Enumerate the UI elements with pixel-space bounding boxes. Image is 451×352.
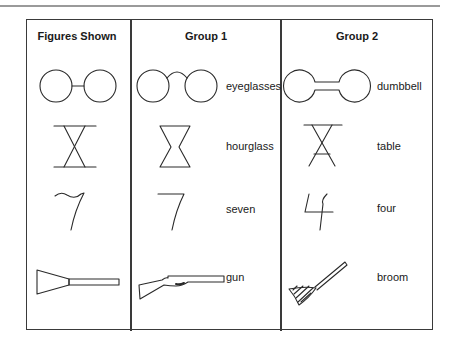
circles-joined-by-line-icon [38,68,118,104]
label-four: four [377,202,396,214]
hourglass-icon [158,125,192,169]
label-eyeglasses: eyeglasses [226,80,281,92]
trapezoid-with-handle-icon [36,268,122,296]
label-hourglass: hourglass [226,140,274,152]
top-rule [0,5,440,7]
dumbbell-icon [285,68,369,104]
column-divider-2 [280,19,282,331]
label-seven: seven [226,203,255,215]
label-table: table [377,140,401,152]
label-broom: broom [377,271,408,283]
gun-icon [138,274,226,304]
header-group-2: Group 2 [336,30,378,42]
crossed-lines-between-bars-icon [52,125,98,169]
table-icon [302,124,344,168]
seven-icon [156,190,188,232]
label-gun: gun [226,271,244,283]
header-group-1: Group 1 [185,30,227,42]
eyeglasses-icon [135,68,219,104]
column-divider-1 [130,19,132,331]
four-icon [303,192,339,232]
header-figures-shown: Figures Shown [38,30,117,42]
broom-icon [287,256,349,306]
wavy-seven-icon [53,190,93,232]
label-dumbbell: dumbbell [377,80,422,92]
